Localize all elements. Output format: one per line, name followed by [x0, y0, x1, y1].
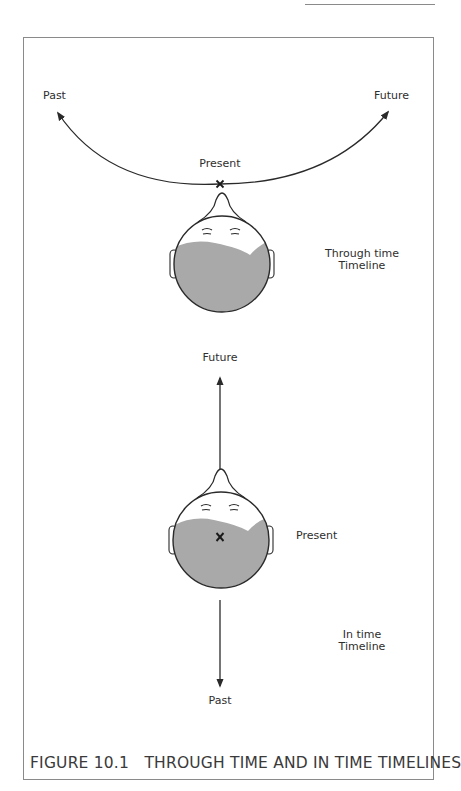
- in-time-past-label: Past: [209, 695, 232, 707]
- through-time-future-label: Future: [374, 90, 409, 102]
- through-time-past-label: Past: [43, 90, 66, 102]
- head-through-time-icon: [170, 193, 275, 320]
- in-time-present-label: Present: [296, 530, 337, 542]
- in-time-title-line2: Timeline: [339, 641, 386, 653]
- through-time-arc: [58, 112, 388, 184]
- head-in-time-icon: [169, 469, 274, 596]
- through-time-present-label: Present: [199, 158, 240, 170]
- in-time-future-label: Future: [202, 352, 237, 364]
- figure-caption: FIGURE 10.1 THROUGH TIME AND IN TIME TIM…: [30, 754, 461, 772]
- through-time-title-line2: Timeline: [339, 260, 386, 272]
